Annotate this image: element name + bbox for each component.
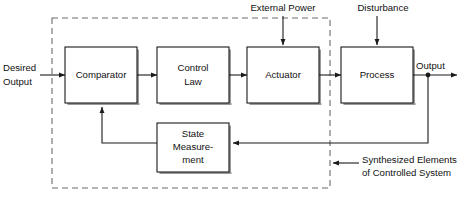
diagram-canvas: Comparator Control Law Actuator Process … [0, 0, 465, 204]
control-law-label-line2: Law [184, 76, 202, 87]
annotation-label-line1: Synthesized Elements [362, 154, 457, 165]
external-power-label: External Power [250, 2, 316, 13]
wire-state-measurement-to-comparator [102, 107, 157, 143]
state-measurement-label-line2: Measure- [173, 141, 214, 152]
state-measurement-label-line3: ment [182, 154, 204, 165]
disturbance-label: Disturbance [357, 2, 408, 13]
process-label: Process [360, 69, 395, 80]
control-law-label-line1: Control [178, 62, 209, 73]
comparator-label: Comparator [76, 69, 127, 80]
desired-output-label-line1: Desired [3, 62, 36, 73]
annotation-label-line2: of Controlled System [362, 167, 451, 178]
control-system-block-diagram: Comparator Control Law Actuator Process … [0, 0, 465, 204]
state-measurement-label-line1: State [182, 128, 204, 139]
output-label: Output [416, 60, 445, 71]
control-law-block[interactable] [157, 47, 229, 103]
actuator-label: Actuator [265, 69, 302, 80]
desired-output-label-line2: Output [3, 76, 32, 87]
